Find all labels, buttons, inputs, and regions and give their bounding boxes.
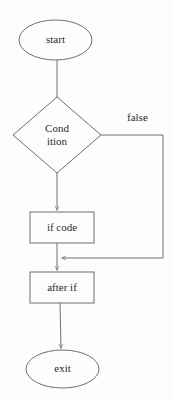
edge-condition-false-branch	[62, 135, 163, 258]
edge-after-if-to-exit	[60, 303, 61, 348]
flowchart-graphics	[0, 0, 172, 402]
node-start-shape	[19, 20, 92, 60]
node-if-code-shape	[30, 212, 94, 243]
node-after-if-shape	[30, 272, 94, 303]
edge-false-label: false	[127, 111, 148, 124]
node-condition-shape	[13, 97, 101, 173]
node-exit-shape	[26, 350, 99, 388]
flowchart-canvas: start Condition if code after if exit fa…	[0, 0, 172, 402]
